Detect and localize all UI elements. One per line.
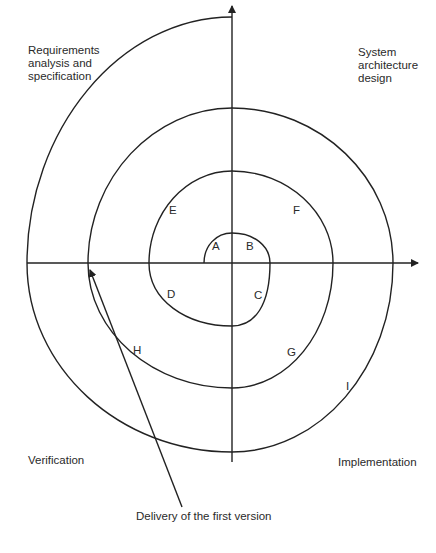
quadrant-implementation-label: Implementation (338, 456, 417, 469)
delivery-annotation: Delivery of the first version (136, 510, 272, 523)
quadrant-verification-label: Verification (28, 454, 84, 467)
point-b: B (246, 240, 254, 252)
point-e: E (169, 204, 177, 216)
point-f: F (293, 204, 300, 216)
point-d: D (167, 288, 175, 300)
point-c: C (254, 289, 262, 301)
quadrant-architecture-label: System architecture design (358, 46, 418, 85)
point-a: A (212, 240, 220, 252)
point-i: I (346, 380, 349, 392)
point-h: H (133, 344, 141, 356)
delivery-pointer (90, 270, 182, 507)
point-g: G (287, 346, 296, 358)
quadrant-requirements-label: Requirements analysis and specification (28, 44, 100, 83)
